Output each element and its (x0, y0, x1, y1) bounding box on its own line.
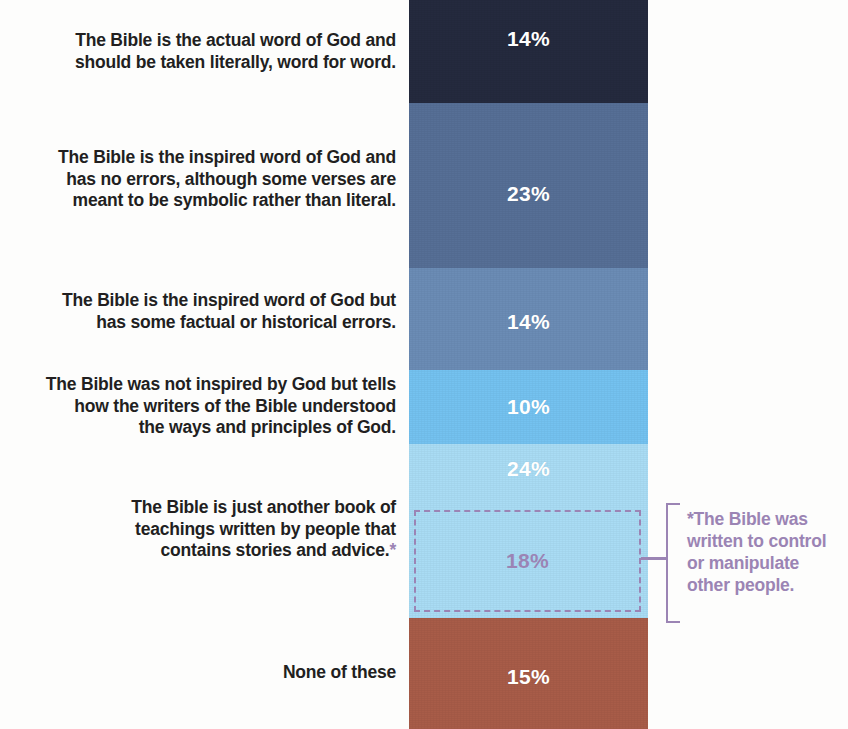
label-line: teachings written by people that (131, 519, 396, 541)
callout-dashed-box: 18% (414, 510, 641, 612)
bar-segment-none-of-these: 15% (409, 618, 648, 729)
footnote-line: written to control (687, 530, 847, 552)
label-line: how the writers of the Bible understood (46, 396, 396, 418)
label-line: The Bible was not inspired by God but te… (46, 374, 396, 396)
bar-segment-value: 10% (507, 395, 550, 419)
bar-segment-value: 14% (507, 310, 550, 334)
footnote-line: or manipulate (687, 552, 847, 574)
bar-segment-literal: 14% (409, 0, 648, 103)
label-line: The Bible is the actual word of God and (75, 30, 396, 52)
segment-label-none-of-these: None of these (283, 662, 396, 684)
callout-bracket (666, 503, 680, 623)
bar-segment-value: 15% (507, 665, 550, 689)
footnote-line: *The Bible was (687, 508, 847, 530)
texture-overlay (409, 0, 648, 103)
bar-segment-not-inspired: 10% (409, 370, 648, 444)
segment-label-not-inspired: The Bible was not inspired by God but te… (46, 374, 396, 439)
segment-label-inspired-no-errors: The Bible is the inspired word of God an… (58, 147, 396, 212)
segment-label-literal: The Bible is the actual word of God and … (75, 30, 396, 73)
footnote-line: other people. (687, 574, 847, 596)
label-line: contains stories and advice.* (131, 540, 396, 562)
bar-segment-value: 24% (507, 457, 550, 481)
infographic-root: The Bible is the actual word of God and … (0, 0, 848, 729)
segment-label-another-book: The Bible is just another book of teachi… (131, 497, 396, 562)
label-text: contains stories and advice. (161, 540, 390, 560)
callout-footnote: *The Bible was written to control or man… (687, 508, 847, 596)
bar-segment-inspired-no-errors: 23% (409, 103, 648, 268)
stacked-bar: 14% 23% 14% 10% 24% 15% (409, 0, 648, 729)
label-line: The Bible is the inspired word of God bu… (62, 290, 396, 312)
label-line: has some factual or historical errors. (62, 312, 396, 334)
bar-segment-value: 14% (507, 27, 550, 51)
label-line: the ways and principles of God. (46, 417, 396, 439)
bar-segment-inspired-some-errors: 14% (409, 268, 648, 370)
label-line: The Bible is the inspired word of God an… (58, 147, 396, 169)
label-line: meant to be symbolic rather than literal… (58, 190, 396, 212)
label-line: has no errors, although some verses are (58, 169, 396, 191)
label-column: The Bible is the actual word of God and … (0, 0, 404, 729)
label-line: The Bible is just another book of (131, 497, 396, 519)
segment-label-inspired-some-errors: The Bible is the inspired word of God bu… (62, 290, 396, 333)
bar-segment-value: 23% (507, 182, 550, 206)
callout-connector-line (641, 557, 668, 560)
footnote-asterisk: * (389, 540, 396, 560)
label-line: None of these (283, 662, 396, 684)
label-line: should be taken literally, word for word… (75, 52, 396, 74)
callout-value: 18% (506, 549, 549, 573)
